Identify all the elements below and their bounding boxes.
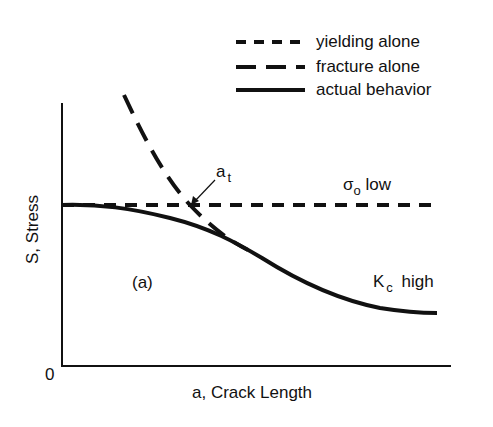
at-main: a	[216, 162, 225, 181]
at-sub: t	[227, 170, 231, 185]
sigma-suffix: low	[365, 175, 391, 194]
sigma-sub: o	[354, 183, 361, 198]
y-axis-label: S, Stress	[24, 190, 41, 270]
legend-fracture-label: fracture alone	[316, 58, 420, 75]
panel-label: (a)	[132, 274, 153, 291]
sigma-annotation: σo low	[343, 176, 391, 193]
actual-curve	[62, 205, 437, 313]
kc-annotation: Kc high	[373, 273, 434, 290]
legend-actual-label: actual behavior	[316, 81, 431, 98]
at-annotation: at	[216, 163, 231, 180]
kc-sub: c	[386, 280, 393, 295]
legend-yield-label: yielding alone	[316, 33, 420, 50]
sigma-main: σ	[343, 175, 354, 194]
x-axis-label: a, Crack Length	[192, 384, 312, 401]
kc-main: K	[373, 272, 384, 291]
at-arrow-line	[194, 180, 215, 202]
kc-suffix: high	[402, 272, 434, 291]
origin-label: 0	[45, 366, 54, 383]
